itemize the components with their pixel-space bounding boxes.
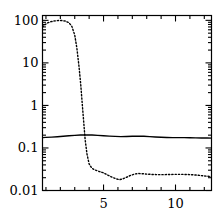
series-dotted-curve [43,21,212,180]
x-tick-label: 5 [84,197,124,210]
series-group [43,21,212,180]
figure: 1001010.10.01 510 [0,0,223,218]
y-tick-label: 0.1 [18,141,39,154]
y-tick-label: 100 [14,14,39,27]
x-tick-label: 10 [156,197,196,210]
tick-marks [43,16,212,191]
axis-frame [43,16,212,191]
y-tick-label: 0.01 [10,184,39,197]
series-solid-curve [43,135,212,138]
y-tick-label: 10 [22,56,39,69]
y-tick-label: 1 [30,99,38,112]
